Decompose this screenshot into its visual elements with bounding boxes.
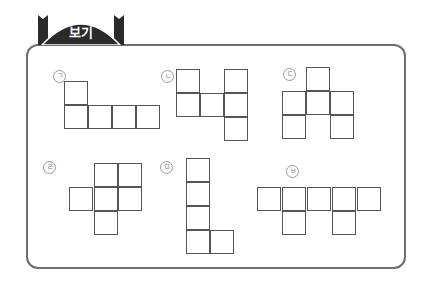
net-square-cell (94, 163, 118, 187)
net-square-cell (186, 182, 210, 206)
net-square-cell (332, 187, 356, 211)
net-square-cell (357, 187, 381, 211)
shape-label-circle: ㅁ (160, 161, 173, 174)
net-square-cell (69, 187, 93, 211)
shape-label-circle: ㅂ (286, 165, 299, 178)
net-square-cell (136, 105, 160, 129)
shape-label-circle: ㄷ (283, 68, 296, 81)
net-square-cell (88, 105, 112, 129)
net-square-cell (224, 93, 248, 117)
net-square-cell (64, 81, 88, 105)
example-header-tab: 보기 (38, 11, 124, 45)
net-square-cell (176, 93, 200, 117)
net-square-cell (282, 91, 306, 115)
net-square-cell (330, 91, 354, 115)
net-square-cell (186, 206, 210, 230)
net-square-cell (257, 187, 281, 211)
net-square-cell (200, 93, 224, 117)
net-square-cell (282, 211, 306, 235)
net-square-cell (118, 163, 142, 187)
header-tab-label: 보기 (38, 22, 124, 41)
net-square-cell (307, 187, 331, 211)
net-square-cell (306, 91, 330, 115)
net-square-cell (186, 158, 210, 182)
shape-label-circle: ㄹ (43, 161, 56, 174)
net-square-cell (332, 211, 356, 235)
net-square-cell (282, 187, 306, 211)
net-square-cell (94, 211, 118, 235)
net-square-cell (224, 69, 248, 93)
net-square-cell (94, 187, 118, 211)
net-square-cell (330, 115, 354, 139)
net-square-cell (176, 69, 200, 93)
net-square-cell (186, 230, 210, 254)
shape-label-circle: ㄴ (161, 70, 174, 83)
net-square-cell (64, 105, 88, 129)
net-square-cell (306, 67, 330, 91)
net-square-cell (118, 187, 142, 211)
net-square-cell (210, 230, 234, 254)
net-square-cell (224, 117, 248, 141)
net-square-cell (112, 105, 136, 129)
net-square-cell (282, 115, 306, 139)
